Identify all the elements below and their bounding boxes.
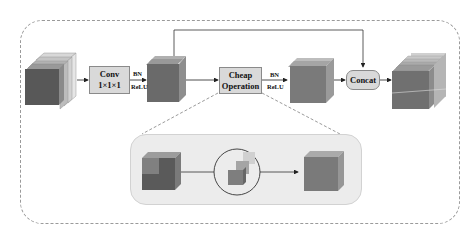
split-cube-icon bbox=[142, 152, 181, 190]
merged-cube-icon bbox=[304, 151, 344, 191]
detail-graphics bbox=[0, 0, 472, 237]
depthwise-cubes-icon bbox=[228, 152, 255, 185]
